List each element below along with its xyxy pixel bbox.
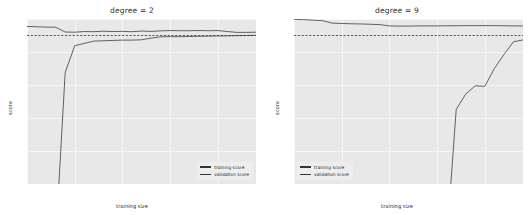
curves-svg	[294, 19, 523, 184]
legend-item-validation-score: validation score	[300, 172, 349, 177]
legend-line-icon	[200, 174, 211, 175]
curves-svg	[27, 19, 256, 184]
y-axis-label: score	[7, 101, 13, 115]
series-training-score	[294, 19, 523, 26]
y-axis-label: score	[274, 101, 280, 115]
plot-area: 0.0 0.2 0.4 0.6 0.8 1.0 10 15 20 25 30 t…	[27, 19, 256, 184]
legend-label: training score	[314, 165, 344, 170]
x-axis-label: training size	[265, 203, 529, 209]
legend-label: training score	[214, 165, 244, 170]
legend-item-validation-score: validation score	[200, 172, 249, 177]
legend: training score validation score	[297, 162, 353, 181]
plot-area: 0.0 0.2 0.4 0.6 0.8 1.0 10 15 20 25 30 t…	[294, 19, 523, 184]
panel-degree-9: degree = 9 score training size 0.0 0.2 0…	[265, 0, 529, 215]
legend-label: validation score	[314, 172, 349, 177]
legend-line-icon	[200, 166, 211, 167]
panel-title: degree = 2	[0, 6, 264, 15]
series-training-score	[27, 26, 256, 32]
learning-curve-figure: degree = 2 score training size 0.0 0.2 0…	[0, 0, 529, 215]
legend: training score validation score	[197, 162, 253, 181]
panel-degree-2: degree = 2 score training size 0.0 0.2 0…	[0, 0, 264, 215]
legend-item-training-score: training score	[300, 165, 349, 170]
x-axis-label: training size	[0, 203, 264, 209]
legend-label: validation score	[214, 172, 249, 177]
legend-item-training-score: training score	[200, 165, 249, 170]
panel-title: degree = 9	[265, 6, 529, 15]
legend-line-icon	[300, 174, 311, 175]
legend-line-icon	[300, 166, 311, 167]
